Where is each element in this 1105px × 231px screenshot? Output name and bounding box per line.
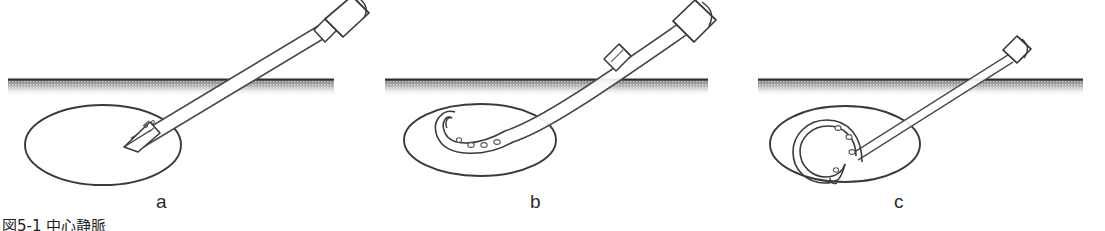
vessel-ellipse-a [25,105,181,185]
panel-c [770,36,1031,184]
panel-label-c: c [894,192,904,211]
skin-line-a [8,80,334,97]
skin-line-group [8,80,1083,97]
skin-line-c [758,80,1083,97]
vessel-ellipse-c [770,106,920,182]
needle-hub-a [314,0,369,42]
skin-line-b [385,80,708,97]
catheter-shaft-c [853,55,1013,160]
panel-label-a: a [156,192,167,211]
figure-caption: 図5-1 中心静脈 [2,219,212,231]
panel-label-b: b [530,192,541,211]
figure-root: a b c 図5-1 中心静脈 [0,0,1105,231]
